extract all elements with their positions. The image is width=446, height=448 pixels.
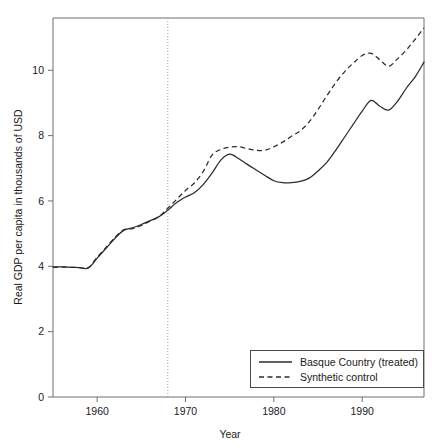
x-axis-title: Year [219, 428, 241, 440]
y-tick-label: 2 [38, 325, 44, 337]
data-series-group [53, 28, 424, 269]
y-tick-label: 4 [38, 260, 44, 272]
legend-label-synthetic-control: Synthetic control [300, 371, 378, 383]
x-tick-label: 1990 [350, 405, 374, 417]
x-tick-label: 1960 [85, 405, 109, 417]
series-line-basque-country [53, 62, 424, 268]
line-chart: 0246810 1960197019801990 Year Real GDP p… [0, 0, 446, 448]
x-axis-ticks: 1960197019801990 [85, 397, 374, 417]
x-tick-label: 1980 [262, 405, 286, 417]
chart-legend[interactable]: Basque Country (treated) Synthetic contr… [251, 351, 424, 388]
y-axis-title: Real GDP per capita in thousands of USD [12, 109, 24, 305]
series-line-synthetic-control [53, 28, 424, 269]
y-tick-label: 0 [38, 391, 44, 403]
x-tick-label: 1970 [174, 405, 198, 417]
legend-label-basque-country: Basque Country (treated) [300, 356, 418, 368]
plot-frame [53, 18, 424, 397]
chart-figure: 0246810 1960197019801990 Year Real GDP p… [0, 0, 446, 448]
y-tick-label: 6 [38, 195, 44, 207]
y-tick-label: 10 [32, 64, 44, 76]
y-tick-label: 8 [38, 129, 44, 141]
y-axis-ticks: 0246810 [32, 64, 53, 403]
